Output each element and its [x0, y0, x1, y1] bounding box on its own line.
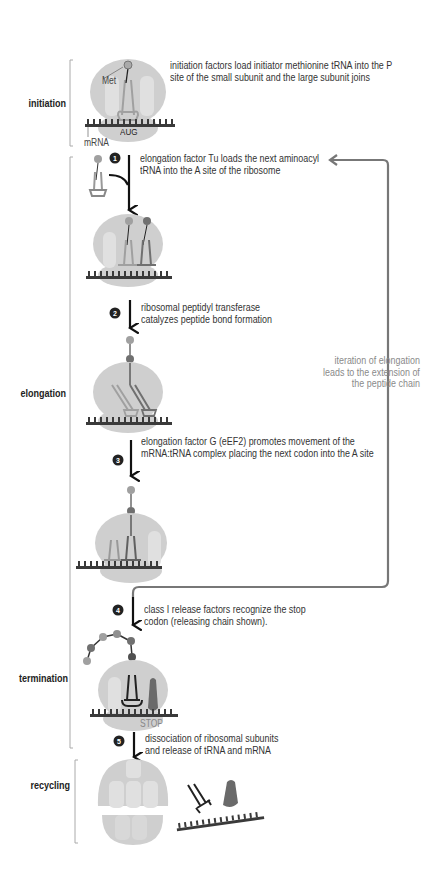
stage-label-elongation: elongation [9, 387, 66, 399]
stage-brackets [70, 60, 78, 843]
step3-number: 3 [116, 457, 120, 464]
step4-description: class I release factors recognize the st… [144, 604, 306, 627]
stage-label-initiation: initiation [9, 97, 66, 109]
step3-description: elongation factor G (eEF2) promotes move… [141, 436, 374, 459]
step3-ribosome [76, 486, 167, 583]
initiation-description: initiation factors load initiator methio… [170, 60, 392, 83]
step1-number: 1 [113, 155, 117, 162]
met-label: Met [102, 75, 116, 86]
step2-number: 2 [113, 310, 117, 317]
step4-number: 4 [116, 607, 120, 614]
mrna-label: mRNA [84, 137, 109, 148]
step5-description: dissociation of ribosomal subunits and r… [145, 733, 278, 756]
step1-description: elongation factor Tu loads the next amin… [140, 153, 319, 176]
bracket-termination [70, 592, 73, 748]
step1-graphics [90, 155, 129, 210]
step1-ribosome [86, 214, 172, 287]
codon-label: AUG [120, 126, 138, 137]
step5-number: 5 [117, 738, 121, 745]
stage-label-recycling: recycling [13, 779, 70, 791]
recycling-graphics [98, 759, 264, 845]
step2-ribosome [86, 336, 172, 433]
stop-codon-label: STOP [140, 718, 163, 729]
bracket-recycling [75, 760, 78, 843]
bracket-elongation [70, 157, 73, 592]
step4-ribosome [83, 630, 178, 731]
step2-description: ribosomal peptidyl transferase catalyzes… [141, 302, 272, 325]
stage-label-termination: termination [11, 672, 68, 684]
bracket-initiation [70, 60, 73, 146]
loop-description: iteration of elongation leads to the ext… [323, 355, 420, 390]
